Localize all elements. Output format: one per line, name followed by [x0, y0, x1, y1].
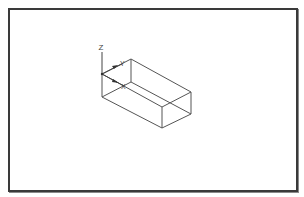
z-axis-label: Z [99, 43, 104, 52]
ucs-icon: Z Y X [99, 43, 127, 90]
edge-bottom-right [162, 114, 191, 128]
x-axis-arrowhead-icon [112, 79, 119, 83]
y-axis [102, 64, 122, 74]
model-space-canvas[interactable]: Z Y X [0, 0, 304, 197]
edge-bottom-left [102, 82, 131, 97]
edge-top-right [162, 92, 191, 107]
x-axis-label: X [121, 83, 126, 90]
wireframe-box[interactable] [102, 59, 191, 128]
y-axis-label: Y [120, 60, 125, 67]
ucs-origin-marker-icon [101, 73, 103, 75]
